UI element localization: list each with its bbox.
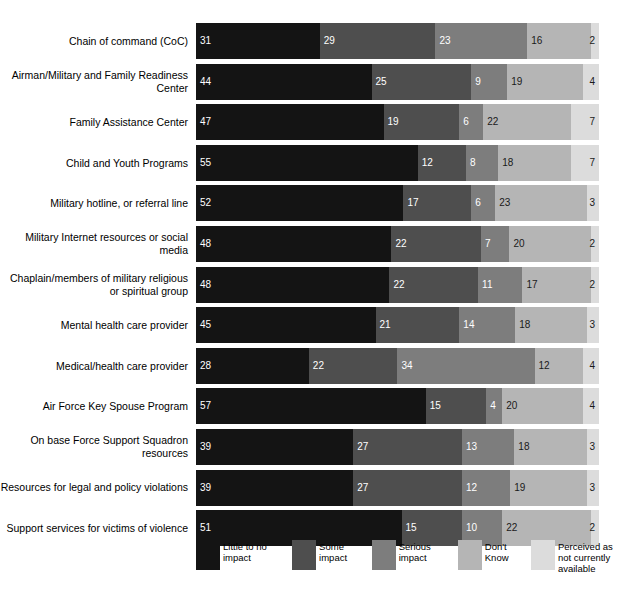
segment-value: 15	[406, 523, 417, 533]
segment-value: 25	[376, 77, 387, 87]
category-label: Military Internet resources or social me…	[0, 231, 196, 256]
bar-segment: 22	[389, 267, 478, 303]
bar-segment: 3	[587, 185, 599, 221]
segment-value: 22	[393, 280, 404, 290]
segment-value: 2	[589, 239, 595, 249]
segment-value: 11	[482, 280, 492, 290]
bar-segment: 7	[571, 104, 599, 140]
segment-value: 45	[200, 320, 211, 330]
legend-item: Little to no impact	[196, 540, 286, 570]
segment-value: 4	[589, 77, 595, 87]
segment-value: 22	[313, 361, 324, 371]
segment-value: 8	[470, 158, 476, 168]
segment-value: 18	[502, 158, 513, 168]
bar-segment: 3	[587, 307, 599, 343]
segment-value: 19	[511, 77, 522, 87]
bar-segment: 27	[353, 470, 462, 506]
bar-segment: 52	[196, 185, 403, 221]
chart-row: Military Internet resources or social me…	[0, 225, 627, 263]
category-label: Medical/health care provider	[0, 360, 196, 373]
chart-row: Chain of command (CoC)312923162	[0, 22, 627, 60]
bar-segment: 19	[510, 470, 587, 506]
segment-value: 18	[519, 320, 530, 330]
segment-value: 27	[357, 483, 368, 493]
bar-segment: 18	[515, 307, 587, 343]
segment-value: 15	[430, 401, 441, 411]
segment-value: 3	[589, 198, 595, 208]
segment-value: 12	[539, 361, 550, 371]
legend-item: Some impact	[292, 540, 366, 570]
bar-segment: 6	[471, 185, 495, 221]
bar-segment: 28	[196, 348, 309, 384]
category-label: On base Force Support Squadron resources	[0, 434, 196, 459]
bar-segment: 20	[502, 388, 583, 424]
bar-segment: 25	[372, 64, 472, 100]
bar-segment: 8	[466, 145, 498, 181]
segment-value: 3	[589, 483, 595, 493]
segment-value: 12	[466, 483, 477, 493]
bar-segment: 19	[507, 64, 583, 100]
category-label: Chain of command (CoC)	[0, 35, 196, 48]
segment-value: 16	[531, 36, 542, 46]
bar-segment: 4	[583, 64, 599, 100]
chart-row: Chaplain/members of military religious o…	[0, 266, 627, 304]
bar-segment: 48	[196, 226, 391, 262]
segment-value: 7	[485, 239, 491, 249]
bar-segment: 31	[196, 23, 320, 59]
legend-item: Serious impact	[372, 540, 452, 570]
bar-segment: 2	[591, 226, 599, 262]
segment-value: 12	[422, 158, 433, 168]
segment-value: 52	[200, 198, 211, 208]
segment-value: 7	[589, 158, 595, 168]
bar-segment: 4	[583, 388, 599, 424]
bar-segment: 15	[426, 388, 486, 424]
segment-value: 4	[589, 401, 595, 411]
chart-row: Military hotline, or referral line521762…	[0, 184, 627, 222]
segment-value: 3	[589, 442, 595, 452]
chart-legend: Little to no impactSome impactSerious im…	[196, 540, 627, 574]
category-label: Resources for legal and policy violation…	[0, 481, 196, 494]
bar-segment: 16	[527, 23, 591, 59]
segment-value: 29	[324, 36, 335, 46]
legend-item: Perceived as not currently available	[531, 540, 621, 574]
bar-segment: 39	[196, 470, 353, 506]
chart-row: Medical/health care provider282234124	[0, 347, 627, 385]
legend-label: Perceived as not currently available	[558, 540, 621, 574]
segment-value: 51	[200, 523, 211, 533]
legend-label: Serious impact	[399, 540, 452, 563]
bar-segment: 3	[587, 470, 599, 506]
bar-segment: 27	[353, 429, 462, 465]
stacked-bar: 392712193	[196, 470, 599, 506]
segment-value: 48	[200, 280, 211, 290]
chart-row: Child and Youth Programs55128187	[0, 144, 627, 182]
stacked-bar: 44259194	[196, 64, 599, 100]
bar-segment: 7	[571, 145, 599, 181]
bar-segment: 44	[196, 64, 372, 100]
segment-value: 14	[463, 320, 474, 330]
stacked-bar: 55128187	[196, 145, 599, 181]
bar-segment: 14	[459, 307, 515, 343]
bar-segment: 18	[514, 429, 587, 465]
bar-segment: 19	[384, 104, 460, 140]
bar-segment: 12	[535, 348, 583, 384]
segment-value: 6	[475, 198, 481, 208]
chart-row: Airman/Military and Family Readiness Cen…	[0, 63, 627, 101]
segment-value: 22	[506, 523, 517, 533]
category-label: Military hotline, or referral line	[0, 197, 196, 210]
bar-segment: 11	[478, 267, 522, 303]
legend-swatch	[196, 540, 220, 570]
plot-area: Chain of command (CoC)312923162Airman/Mi…	[0, 22, 627, 550]
bar-segment: 22	[483, 104, 571, 140]
bar-segment: 17	[522, 267, 591, 303]
bar-segment: 4	[486, 388, 502, 424]
chart-row: Mental health care provider452114183	[0, 306, 627, 344]
legend-label: Don't Know	[485, 540, 525, 563]
segment-value: 55	[200, 158, 211, 168]
segment-value: 20	[506, 401, 517, 411]
bar-segment: 22	[391, 226, 481, 262]
segment-value: 19	[388, 117, 399, 127]
bar-segment: 3	[587, 429, 599, 465]
stacked-bar: 48227202	[196, 226, 599, 262]
bar-segment: 22	[309, 348, 398, 384]
bar-segment: 21	[376, 307, 460, 343]
